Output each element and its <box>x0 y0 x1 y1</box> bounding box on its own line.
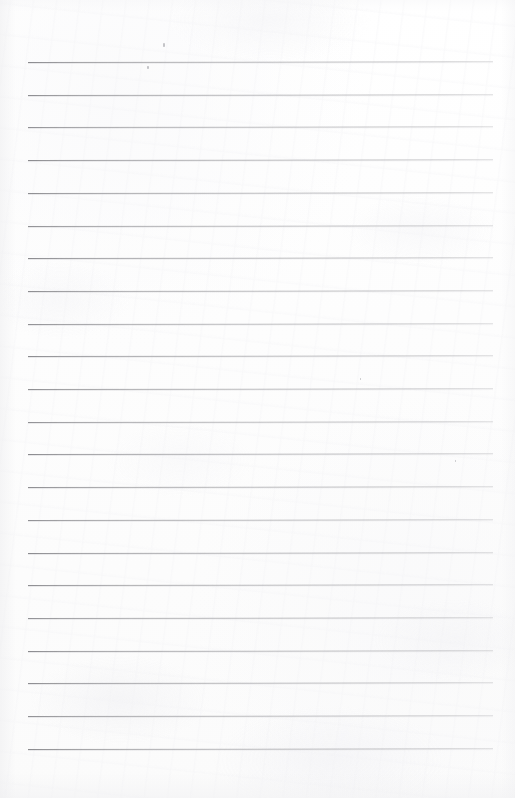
scanned-page <box>0 0 515 798</box>
page-body-text <box>32 64 490 754</box>
